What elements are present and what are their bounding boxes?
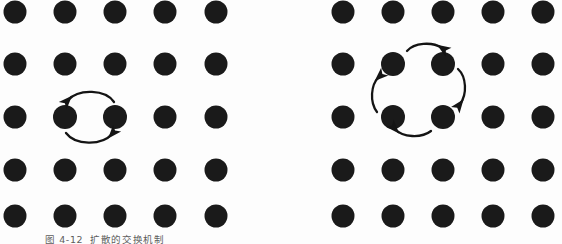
atom: [482, 1, 505, 24]
atom: [104, 53, 127, 76]
atom: [54, 159, 77, 182]
atom: [482, 106, 505, 129]
atom: [332, 159, 355, 182]
atom: [532, 159, 555, 182]
atom: [205, 106, 228, 129]
atom: [205, 159, 228, 182]
atom: [4, 205, 27, 228]
atom: [4, 53, 27, 76]
lattice-diagram-ring: [281, 0, 562, 244]
exchange-arrow-upper: [68, 92, 114, 102]
figure-exchange-mechanism: 图 4-12扩散的交换机制: [0, 0, 281, 244]
ring-arrow-bottom: [395, 129, 431, 136]
atom: [54, 205, 77, 228]
atom: [532, 205, 555, 228]
atom: [4, 159, 27, 182]
atom: [205, 205, 228, 228]
atom: [332, 205, 355, 228]
atom: [482, 53, 505, 76]
atom: [382, 205, 405, 228]
atom: [482, 159, 505, 182]
caption-title: 扩散的交换机制: [90, 234, 164, 244]
caption-label: 图 4-12: [45, 234, 83, 244]
atom: [4, 106, 27, 129]
ring-arrow-right: [458, 69, 465, 104]
atom: [154, 1, 177, 24]
atom-grid: [332, 1, 555, 228]
ring-arrow-top: [407, 44, 442, 51]
atom: [382, 1, 405, 24]
atom: [104, 1, 127, 24]
atom: [432, 159, 455, 182]
atom: [332, 106, 355, 129]
atom-grid: [4, 1, 228, 228]
atom: [4, 1, 27, 24]
exchange-arrow-lower: [66, 133, 112, 143]
atom: [382, 159, 405, 182]
atom-ring: [431, 105, 455, 129]
figure-caption-left: 图 4-12扩散的交换机制: [45, 234, 164, 244]
atom: [205, 53, 228, 76]
atom-ring: [431, 52, 455, 76]
atom: [332, 1, 355, 24]
atom: [154, 159, 177, 182]
atom: [154, 106, 177, 129]
atom: [432, 205, 455, 228]
atom: [154, 53, 177, 76]
atom: [432, 1, 455, 24]
figure-ring-mechanism: 图 4-13扩散的环机制: [281, 0, 562, 244]
atom-exchanging: [53, 105, 77, 129]
ring-arrow-left: [372, 77, 379, 112]
atom: [104, 205, 127, 228]
atom: [154, 205, 177, 228]
atom-exchanging: [103, 105, 127, 129]
atom-ring: [381, 52, 405, 76]
figure-page: 图 4-12扩散的交换机制: [0, 0, 562, 244]
atom: [532, 53, 555, 76]
atom-ring: [381, 105, 405, 129]
lattice-diagram-exchange: [0, 0, 281, 244]
atom: [482, 205, 505, 228]
atom: [332, 53, 355, 76]
atom: [532, 106, 555, 129]
atom: [54, 53, 77, 76]
atom: [104, 159, 127, 182]
atom: [532, 1, 555, 24]
atom: [205, 1, 228, 24]
atom: [54, 1, 77, 24]
